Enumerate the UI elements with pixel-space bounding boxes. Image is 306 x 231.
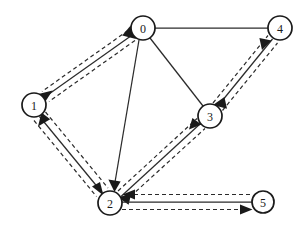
edge-0-1 (39, 26, 137, 102)
edge-1-2-dashed-line-right (46, 112, 109, 188)
node-5-label: 5 (260, 196, 266, 210)
graph-canvas: 0 1 2 3 4 5 (0, 0, 306, 231)
edge-layer (34, 26, 278, 215)
edge-1-2-solid-line (40, 117, 103, 193)
edge-2-3-solid-line (121, 124, 201, 197)
edge-0-3-solid-line (150, 38, 203, 106)
edge-0-3 (150, 38, 203, 106)
edge-3-4-solid-line (218, 39, 273, 107)
node-layer: 0 1 2 3 4 5 (22, 16, 292, 215)
node-0-label: 0 (140, 22, 146, 36)
node-5[interactable]: 5 (252, 191, 274, 213)
node-2[interactable]: 2 (98, 191, 122, 215)
edge-3-4-dashed-line-right (223, 43, 278, 111)
node-1[interactable]: 1 (22, 93, 46, 117)
node-3-label: 3 (207, 110, 213, 124)
edge-2-5-arrowhead-to-5 (240, 205, 253, 215)
graph-diagram: 0 1 2 3 4 5 (0, 0, 306, 231)
edge-1-2-dashed-line-left (34, 121, 97, 197)
node-0[interactable]: 0 (131, 16, 155, 40)
node-4-label: 4 (277, 22, 283, 36)
edge-0-2 (108, 40, 139, 192)
edge-2-3-dashed-line-lower (126, 129, 206, 202)
edge-3-4-dashed-line-left (213, 36, 268, 104)
edge-0-1-dashed-line-lower (49, 41, 135, 102)
edge-0-1-dashed-line-upper (42, 31, 128, 92)
edge-2-3-dashed-line-upper (118, 119, 197, 192)
edge-3-4 (213, 36, 278, 111)
edge-0-2-solid-line (114, 40, 139, 188)
node-3[interactable]: 3 (198, 104, 222, 128)
edge-0-1-solid-line (46, 36, 132, 97)
node-4[interactable]: 4 (268, 16, 292, 40)
edge-1-2 (34, 112, 108, 197)
edge-2-5 (122, 190, 253, 215)
node-2-label: 2 (107, 197, 113, 211)
node-1-label: 1 (31, 99, 37, 113)
